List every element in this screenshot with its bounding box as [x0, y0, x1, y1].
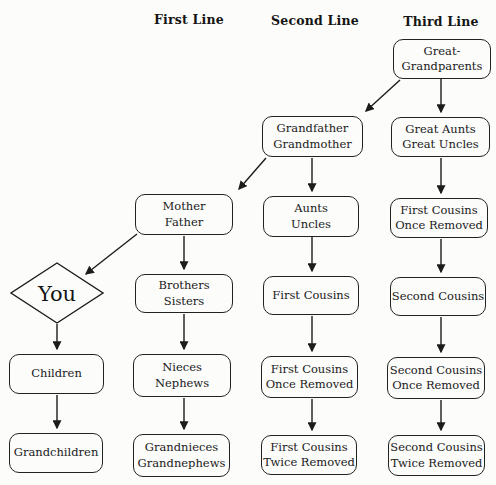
- node-second-cousins-once-removed: Second Cousins Once Removed: [387, 357, 485, 399]
- node-great-grandparents: Great- Grandparents: [393, 39, 491, 79]
- edge-parents-you: [86, 234, 137, 274]
- header-second-line: Second Line: [271, 13, 359, 28]
- node-second-cousins-twice-removed: Second Cousins Twice Removed: [388, 435, 485, 476]
- node-great-aunts-uncles: Great Aunts Great Uncles: [391, 117, 490, 157]
- node-nieces-nephews: Nieces Nephews: [133, 354, 231, 397]
- family-tree-diagram: First Line Second Line Third Line Great-…: [0, 0, 496, 485]
- node-aunts-uncles: Aunts Uncles: [263, 196, 359, 237]
- node-second-cousins: Second Cousins: [390, 277, 486, 316]
- node-you-label: You: [38, 282, 76, 306]
- node-brothers-sisters: Brothers Sisters: [135, 274, 233, 313]
- header-first-line: First Line: [154, 12, 224, 27]
- node-first-cousins-twice-removed: First Cousins Twice Removed: [261, 435, 357, 475]
- node-first-cousins-once-removed-upper: First Cousins Once Removed: [390, 198, 488, 238]
- node-children: Children: [9, 354, 104, 394]
- node-grandnieces-grandnephews: Grandnieces Grandnephews: [133, 434, 230, 477]
- node-grandchildren: Grandchildren: [9, 433, 103, 473]
- node-first-cousins-once-removed-lower: First Cousins Once Removed: [261, 356, 358, 398]
- header-third-line: Third Line: [403, 14, 478, 29]
- node-first-cousins: First Cousins: [263, 276, 359, 315]
- edge-grandparents-parents: [239, 158, 266, 189]
- node-grandfather-grandmother: Grandfather Grandmother: [262, 116, 363, 157]
- node-mother-father: Mother Father: [135, 194, 233, 235]
- edge-ggp-grandparents: [366, 80, 400, 111]
